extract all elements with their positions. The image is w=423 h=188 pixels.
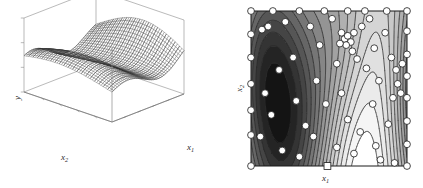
contour-sample-point (393, 67, 400, 74)
contour-sample-point (372, 142, 379, 149)
contour-sample-point (354, 56, 361, 63)
surface-mesh (24, 17, 184, 92)
contour-plot-svg: x2 x1 (211, 0, 423, 188)
contour-sample-point (349, 48, 356, 55)
contour-sample-point (337, 40, 344, 47)
contour-sample-point (388, 54, 395, 61)
contour-sample-point (248, 54, 255, 61)
panel-3d-surface: y x2 x1 (0, 0, 212, 188)
contour-sample-point (363, 65, 370, 72)
contour-sample-point (248, 107, 255, 114)
contour-sample-point (293, 98, 300, 105)
contour-sample-point (262, 90, 269, 97)
contour-sample-point (296, 153, 303, 160)
contour-sample-point (329, 15, 336, 22)
contour-sample-point (333, 60, 340, 67)
contour-sample-point (404, 141, 411, 148)
surface-axis-label-x2: x2 (60, 152, 68, 163)
contour-sample-point (404, 163, 411, 170)
contour-sample-point (399, 60, 406, 67)
contour-sample-point (358, 23, 365, 30)
surface-axis-label-y: y (12, 96, 22, 101)
contour-sample-point (385, 121, 392, 128)
contour-sample-point (391, 160, 398, 167)
contour-axis-label-x2: x2 (234, 85, 245, 93)
contour-sample-point (404, 94, 411, 101)
contour-sample-point (383, 8, 390, 15)
contour-sample-point (248, 80, 255, 87)
contour-sample-point (390, 94, 397, 101)
contour-sample-point (361, 8, 368, 15)
contour-sample-point (310, 133, 317, 140)
contour-sample-point (276, 67, 283, 74)
contour-sample-point (259, 26, 266, 33)
contour-sample-point (343, 42, 350, 49)
contour-sample-point (404, 8, 411, 15)
contour-sample-point (322, 101, 329, 108)
contour-sample-point (338, 90, 345, 97)
contour-sample-point (268, 111, 275, 118)
contour-sample-point (282, 18, 289, 25)
contour-sample-point (397, 90, 404, 97)
contour-sample-point (302, 122, 309, 129)
contour-sample-point (382, 29, 389, 36)
contour-sample-point (269, 8, 276, 15)
contour-sample-point (333, 144, 340, 151)
surface-axis-label-x1: x1 (186, 142, 194, 153)
contour-sample-point (248, 31, 255, 38)
contour-sample-point (248, 132, 255, 139)
contour-sample-point (351, 29, 358, 36)
contour-sample-point (376, 77, 383, 84)
contour-sample-point (366, 15, 373, 22)
contour-sample-point (279, 147, 286, 154)
figure-root: y x2 x1 x2 x1 (0, 0, 423, 188)
contour-sample-point (344, 116, 351, 123)
contour-sample-point (357, 129, 364, 136)
contour-sample-point (265, 23, 272, 30)
contour-sample-point (404, 118, 411, 125)
contour-sample-point (404, 73, 411, 80)
contour-sample-point (313, 77, 320, 84)
contour-sample-point (248, 163, 255, 170)
contour-sample-point (404, 51, 411, 58)
contour-axis-label-x1: x1 (321, 173, 329, 184)
contour-sample-point (321, 8, 328, 15)
contour-sample-point (394, 80, 401, 87)
contour-sample-point (338, 29, 345, 36)
contour-sample-point (404, 28, 411, 35)
contour-sample-point (351, 150, 358, 157)
surface-plot-svg: y x2 x1 (0, 0, 212, 188)
contour-sample-point (369, 101, 376, 108)
contour-sample-point (371, 45, 378, 52)
contour-sample-point (257, 133, 264, 140)
contour-sample-point (344, 8, 351, 15)
contour-sample-point (307, 23, 314, 30)
contour-sample-point (296, 8, 303, 15)
contour-sample-point (290, 54, 297, 61)
contour-sample-point (248, 8, 255, 15)
panel-contour-plot: x2 x1 (211, 0, 423, 188)
contour-sample-point (344, 32, 351, 39)
contour-sample-point (316, 42, 323, 49)
contour-special-marker (324, 163, 331, 170)
contour-sample-point (377, 156, 384, 163)
